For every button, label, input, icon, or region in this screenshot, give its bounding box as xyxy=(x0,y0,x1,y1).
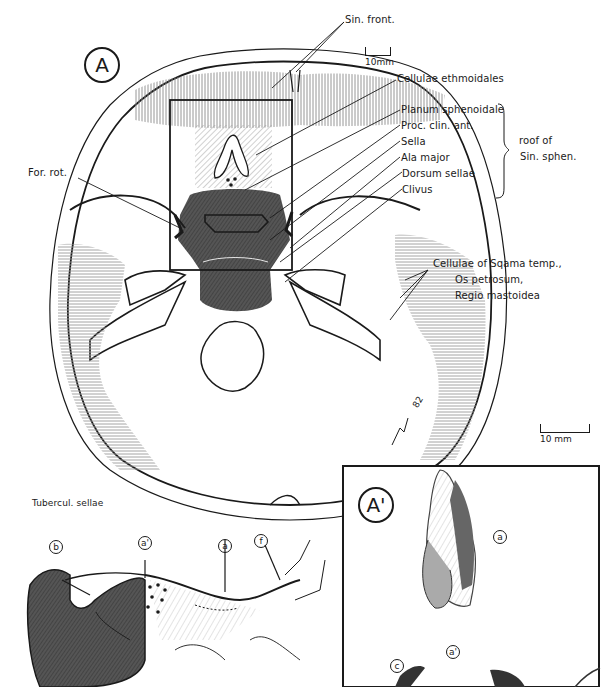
marker-b-text: b xyxy=(53,542,59,552)
sagittal-section xyxy=(28,540,325,687)
panel-label-a-text: A xyxy=(95,53,109,77)
scale-bar-right-line xyxy=(540,426,590,433)
label-cellulae-sqama-temp: Cellulae of Sqama temp., xyxy=(433,258,562,270)
label-for-rot: For. rot. xyxy=(28,167,67,179)
label-ala-major: Ala major xyxy=(401,152,450,164)
inset-marker-a: a xyxy=(493,530,507,544)
label-cellulae-ethmoidales: Cellulae ethmoidales xyxy=(397,73,504,85)
inset-marker-c-text: c xyxy=(395,661,400,671)
panel-label-a: A xyxy=(84,47,120,83)
label-roof-of: roof of xyxy=(519,135,552,147)
scale-bar-top-label: 10mm xyxy=(365,57,391,67)
sphenoid-body xyxy=(178,189,290,311)
inset-marker-a-text: a xyxy=(497,532,503,542)
inset-marker-a-prime: a' xyxy=(446,645,460,659)
inset-marker-a-prime-text: a' xyxy=(449,647,457,657)
panel-label-a-prime-text: A' xyxy=(366,493,385,517)
label-proc-clin-ant: Proc. clin. ant. xyxy=(401,120,474,132)
label-planum-sphenoidale: Planum sphenoidale xyxy=(401,104,504,116)
label-os-petrosum: Os petrosum, xyxy=(455,274,523,286)
marker-a: a xyxy=(218,539,232,553)
panel-label-a-prime: A' xyxy=(358,487,394,523)
label-sin-front: Sin. front. xyxy=(345,14,395,26)
marker-a-prime: a' xyxy=(138,536,152,550)
label-clivus: Clivus xyxy=(402,184,433,196)
signature-mark xyxy=(392,418,408,445)
label-sin-sphen: Sin. sphen. xyxy=(520,151,577,163)
marker-a-text: a xyxy=(222,541,228,551)
scale-bar-top-line xyxy=(365,49,391,56)
label-regio-mastoidea: Regio mastoidea xyxy=(455,290,540,302)
foramen-magnum xyxy=(201,322,264,392)
marker-f: f xyxy=(254,534,268,548)
inset-marker-c: c xyxy=(390,659,404,673)
marker-a-prime-text: a' xyxy=(141,538,149,548)
label-tubercul-sellae: Tubercul. sellae xyxy=(32,497,103,509)
scale-bar-right: 10 mm xyxy=(540,426,590,444)
skull-base-illustration xyxy=(0,0,609,687)
label-dorsum-sellae: Dorsum sellae xyxy=(402,168,475,180)
scale-bar-right-label: 10 mm xyxy=(540,434,590,444)
label-sella: Sella xyxy=(401,136,426,148)
marker-b: b xyxy=(49,540,63,554)
scale-bar-top: 10mm xyxy=(365,49,391,67)
brace xyxy=(496,104,509,198)
marker-f-text: f xyxy=(259,536,262,546)
